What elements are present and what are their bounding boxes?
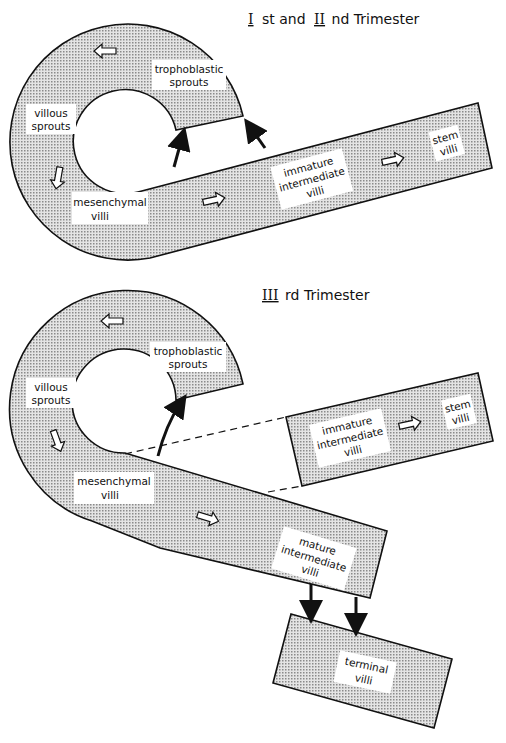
- sprout-arrow-icon: [158, 404, 180, 456]
- label-trophoblastic-sprouts: trophoblastic sprouts: [152, 60, 226, 90]
- panel-third-trimester: III rd Trimester trophoblastic sprouts v…: [10, 287, 493, 728]
- villous-development-diagram: I st and II nd Trimester trophoblastic s…: [0, 0, 506, 743]
- sprout-arrow-icon: [251, 128, 265, 148]
- svg-text:villi: villi: [91, 210, 109, 222]
- panel-title: I st and II nd Trimester: [248, 11, 420, 27]
- label-villous-sprouts: villous sprouts: [26, 378, 76, 408]
- label-villous-sprouts: villous sprouts: [26, 104, 76, 134]
- svg-text:sprouts: sprouts: [169, 358, 208, 370]
- dashed-connector: [268, 486, 302, 492]
- label-mesenchymal-villi: mesenchymal villi: [72, 192, 148, 224]
- svg-text:villous: villous: [34, 381, 68, 393]
- svg-text:mesenchymal: mesenchymal: [77, 475, 151, 487]
- villous-band: [10, 24, 492, 260]
- svg-text:villous: villous: [34, 107, 68, 119]
- svg-text:trophoblastic: trophoblastic: [154, 345, 223, 357]
- svg-text:sprouts: sprouts: [170, 76, 209, 88]
- svg-text:sprouts: sprouts: [32, 394, 71, 406]
- svg-text:mesenchymal: mesenchymal: [73, 196, 147, 208]
- panel-title: III rd Trimester: [262, 287, 370, 303]
- label-trophoblastic-sprouts: trophoblastic sprouts: [150, 342, 226, 372]
- svg-text:trophoblastic: trophoblastic: [155, 63, 224, 75]
- sprout-arrow-icon: [174, 138, 182, 167]
- dashed-connector: [125, 417, 286, 454]
- label-mesenchymal-villi: mesenchymal villi: [74, 472, 154, 504]
- panel-first-second-trimester: I st and II nd Trimester trophoblastic s…: [10, 11, 492, 260]
- svg-text:villi: villi: [101, 489, 119, 501]
- svg-text:sprouts: sprouts: [32, 120, 71, 132]
